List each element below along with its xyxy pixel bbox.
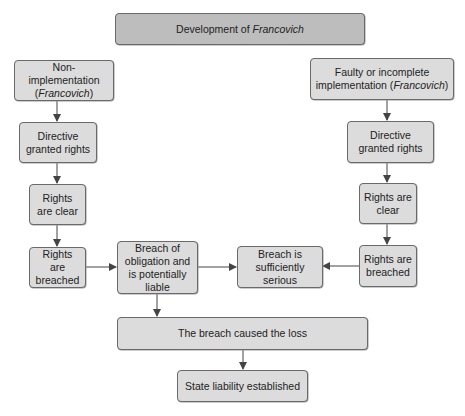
right-rights-clear-box: Rights are clear — [359, 183, 417, 224]
right-directive-box: Directive granted rights — [347, 121, 434, 163]
sufficiently-serious-text: Breach is sufficiently serious — [242, 248, 318, 287]
title-text: Development of — [176, 23, 252, 35]
title-italic: Francovich — [253, 23, 304, 35]
caused-loss-box: The breach caused the loss — [117, 317, 368, 350]
breach-obligation-box: Breach of obligation and is potentially … — [117, 241, 198, 294]
breach-obligation-text: Breach of obligation and is potentially … — [122, 242, 193, 294]
left-rights-breached-box: Rights are breached — [29, 247, 86, 288]
liability-box: State liability established — [177, 370, 308, 402]
right-rights-breached-box: Rights are breached — [359, 245, 417, 287]
left-rights-clear-box: Rights are clear — [29, 184, 86, 225]
left-directive-box: Directive granted rights — [19, 122, 97, 163]
liability-text: State liability established — [185, 380, 300, 393]
faulty-implementation-box: Faulty or incomplete implementation (Fra… — [310, 58, 454, 100]
right-rights-breached-text: Rights are breached — [364, 253, 412, 279]
faulty-implementation-italic: Francovich — [393, 79, 444, 91]
title-box: Development of Francovich — [115, 13, 365, 45]
sufficiently-serious-box: Breach is sufficiently serious — [237, 246, 323, 288]
right-rights-clear-text: Rights are clear — [364, 191, 412, 217]
left-rights-clear-text: Rights are clear — [34, 192, 81, 218]
non-implementation-box: Non-implementation(Francovich) — [14, 60, 114, 101]
right-directive-text: Directive granted rights — [352, 129, 429, 155]
caused-loss-text: The breach caused the loss — [178, 327, 307, 340]
left-directive-text: Directive granted rights — [24, 130, 92, 156]
non-implementation-italic: Francovich — [38, 87, 89, 99]
non-implementation-text: Non-implementation — [28, 61, 99, 86]
left-rights-breached-text: Rights are breached — [34, 248, 81, 287]
